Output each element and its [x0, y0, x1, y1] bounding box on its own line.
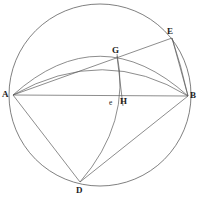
point-label-B: B: [190, 91, 196, 100]
point-label-G: G: [112, 46, 119, 55]
arc-A-to-B-upper: [13, 56, 188, 96]
arc-G-to-D: [80, 54, 120, 182]
point-label-H: H: [120, 97, 127, 106]
geometry-figure: A B D E G H e: [0, 0, 201, 198]
point-label-e: e: [109, 99, 112, 107]
segment-DB: [80, 96, 188, 182]
arc-A-to-B-lower: [13, 70, 188, 96]
segment-AE: [13, 38, 172, 95]
point-label-E: E: [167, 27, 173, 36]
point-label-A: A: [2, 90, 9, 99]
segment-EB: [172, 38, 188, 96]
point-label-D: D: [76, 186, 83, 195]
segment-AB: [13, 95, 188, 96]
